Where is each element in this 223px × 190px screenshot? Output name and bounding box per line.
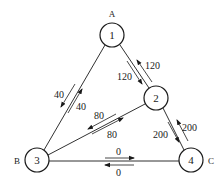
node-name-b: B [14,156,20,166]
flow-label-2-3: 80 [94,110,104,121]
diagram-svg: 1 2 3 4 A B C 40 40 120 120 80 80 200 20… [0,0,223,190]
flow-values: 40 40 120 120 80 80 200 200 0 0 [54,60,197,178]
flow-label-4-3: 0 [116,167,121,178]
flow-label-3-1: 40 [76,101,86,112]
flow-label-1-3: 40 [54,89,64,100]
node-2-label: 2 [153,92,159,104]
network-diagram: 1 2 3 4 A B C 40 40 120 120 80 80 200 20… [0,0,223,190]
node-3-label: 3 [34,154,40,166]
flow-label-2-4: 200 [153,129,168,140]
flow-label-4-2: 200 [182,122,197,133]
nodes [25,23,203,172]
flow-label-2-1: 120 [145,60,160,71]
flow-label-3-2: 80 [107,129,117,140]
node-name-a: A [109,9,116,19]
flow-label-1-2: 120 [117,71,132,82]
node-1-label: 1 [109,29,115,41]
node-name-c: C [208,156,214,166]
flow-label-3-4: 0 [116,146,121,157]
arrow-2-to-4 [168,122,179,142]
node-4-label: 4 [188,154,194,166]
